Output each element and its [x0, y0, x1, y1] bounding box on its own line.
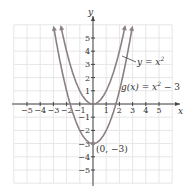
x-tick-label: 3: [130, 106, 135, 115]
graph-figure: −5−4−3−2−112345−5−4−3−2−112345 y x y = x…: [0, 0, 195, 187]
y-tick-label: −5: [78, 166, 90, 175]
curve-label-y-eq-x2: y = x2: [136, 55, 164, 67]
curve-label-g: g(x) = x2 − 3: [121, 80, 180, 92]
vertex-point: [91, 142, 95, 146]
annotations: y x y = x2 g(x) = x2 − 3 (0, −3): [87, 7, 183, 154]
leader-line: [122, 56, 136, 62]
x-tick-label: −3: [48, 106, 60, 115]
x-tick-label: −5: [21, 106, 33, 115]
y-tick-label: −4: [78, 153, 90, 162]
x-tick-label: 1: [104, 106, 109, 115]
y-tick-label: −1: [78, 113, 90, 122]
vertex-label: (0, −3): [96, 144, 128, 154]
y-tick-label: 4: [85, 47, 90, 56]
x-tick-label: 5: [156, 106, 161, 115]
x-tick-label: −4: [34, 106, 46, 115]
y-tick-label: 1: [85, 87, 90, 96]
y-axis-label: y: [87, 7, 94, 17]
coordinate-plane: −5−4−3−2−112345−5−4−3−2−112345 y x y = x…: [0, 0, 195, 187]
y-tick-label: 3: [85, 60, 90, 69]
x-tick-label: 4: [143, 106, 148, 115]
x-axis-label: x: [178, 106, 183, 116]
axes: [12, 16, 180, 186]
y-tick-label: 5: [85, 34, 90, 43]
x-tick-label: 2: [117, 106, 122, 115]
y-tick-label: 2: [85, 74, 90, 83]
